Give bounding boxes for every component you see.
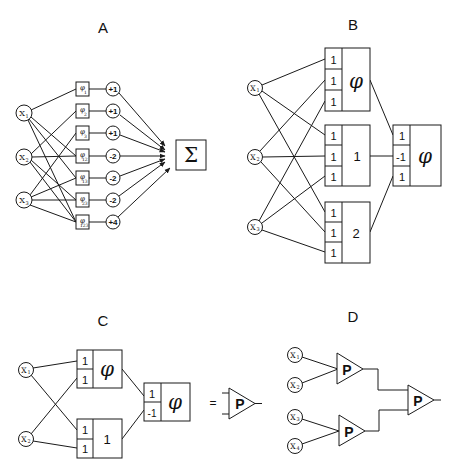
svg-text:X: X: [19, 196, 25, 205]
panel-b: B X 1 X 2: [248, 16, 442, 263]
phi-icon: φ: [349, 69, 363, 93]
panel-c-input-x1: X 1: [19, 363, 34, 378]
svg-text:3: 3: [25, 200, 28, 206]
panel-c-label: C: [98, 312, 109, 329]
panel-a-phi-units: φ 1 +1 φ 2 +1 φ 3: [76, 82, 170, 229]
svg-text:2: 2: [256, 156, 259, 162]
svg-text:1: 1: [82, 374, 88, 386]
phi-unit-123: φ 123 +4: [76, 168, 170, 229]
svg-text:1: 1: [25, 113, 28, 119]
parity-icon: P: [413, 393, 422, 409]
equals-sign: =: [209, 396, 216, 410]
svg-text:1: 1: [399, 171, 405, 183]
svg-text:2: 2: [296, 384, 299, 390]
svg-text:1: 1: [330, 54, 336, 66]
svg-text:+1: +1: [108, 107, 118, 116]
phi-icon: φ: [418, 144, 432, 168]
panel-b-hidden-unit-phi: 1 1 1 φ: [325, 48, 370, 111]
svg-text:-2: -2: [109, 152, 117, 161]
svg-text:X: X: [19, 109, 25, 118]
panel-d: D X 1 X 2 X 3 X 4: [288, 308, 442, 454]
panel-c-hidden-unit-1: 1 1 1: [77, 419, 122, 458]
svg-text:1: 1: [296, 354, 299, 360]
panel-b-input-x2: X 2: [248, 150, 263, 165]
svg-text:1: 1: [330, 151, 336, 163]
panel-b-label: B: [348, 16, 358, 33]
panel-d-parity-unit-top: P: [337, 353, 363, 384]
panel-d-input-x3: X 3: [288, 410, 303, 425]
panel-c-parity-unit: P: [222, 388, 262, 419]
panel-c-output-unit: 1 -1 φ: [144, 383, 190, 421]
svg-text:2: 2: [84, 112, 87, 117]
phi-icon: φ: [100, 357, 114, 381]
panel-c-hidden-unit-phi: 1 1 φ: [77, 350, 122, 388]
svg-text:1: 1: [82, 355, 88, 367]
panel-b-input-x3: X 3: [248, 220, 263, 235]
svg-text:4: 4: [296, 445, 299, 451]
svg-text:-2: -2: [109, 196, 117, 205]
svg-text:3: 3: [256, 226, 259, 232]
svg-text:2: 2: [25, 157, 28, 163]
phi-icon: φ: [168, 390, 182, 414]
panel-d-label: D: [348, 308, 359, 325]
panel-b-hidden-unit-2: 1 1 1 2: [325, 202, 370, 263]
parity-icon: P: [342, 362, 351, 378]
panel-a-input-edges: [28, 89, 76, 222]
svg-text:3: 3: [296, 416, 299, 422]
svg-text:1: 1: [103, 432, 110, 447]
panel-a-sum-unit: Σ: [176, 140, 206, 170]
svg-text:1: 1: [82, 424, 88, 436]
svg-text:-1: -1: [148, 408, 157, 419]
panel-d-parity-unit-output: P: [408, 385, 434, 415]
panel-d-input-x1: X 1: [288, 348, 303, 363]
phi-unit-12: φ 12 -2: [76, 149, 165, 163]
parity-network-figure: A X 1 X 2: [0, 0, 460, 474]
svg-text:-1: -1: [396, 151, 406, 163]
svg-text:1: 1: [330, 75, 336, 87]
svg-text:1: 1: [84, 90, 87, 95]
svg-text:1: 1: [149, 388, 155, 400]
panel-b-output-unit: 1 -1 1 φ: [393, 125, 441, 186]
panel-c-input-x2: X 2: [19, 432, 34, 447]
svg-text:3: 3: [84, 134, 87, 139]
svg-text:1: 1: [330, 207, 336, 219]
svg-text:X: X: [19, 153, 25, 162]
svg-text:1: 1: [82, 443, 88, 455]
svg-text:1: 1: [330, 247, 336, 259]
svg-text:1: 1: [330, 227, 336, 239]
svg-text:+4: +4: [108, 218, 118, 227]
svg-text:1: 1: [399, 130, 405, 142]
panel-a-input-x1: X 1: [16, 105, 32, 121]
svg-text:-2: -2: [109, 174, 117, 183]
svg-text:+1: +1: [108, 129, 118, 138]
svg-text:12: 12: [82, 157, 88, 162]
panel-d-parity-unit-bottom: P: [339, 415, 365, 446]
svg-text:1: 1: [256, 87, 259, 93]
svg-text:123: 123: [80, 223, 89, 228]
panel-c: C X 1 X 2 1 1 φ: [19, 312, 263, 458]
svg-text:2: 2: [27, 438, 30, 444]
panel-d-input-x2: X 2: [288, 378, 303, 393]
panel-b-input-x1: X 1: [248, 81, 263, 96]
panel-a: A X 1 X 2: [16, 19, 206, 229]
svg-text:23: 23: [82, 201, 88, 206]
parity-icon: P: [344, 424, 353, 440]
panel-a-label: A: [98, 19, 108, 36]
panel-b-hidden-unit-1: 1 1 1 1: [325, 125, 370, 186]
svg-text:1: 1: [330, 96, 336, 108]
svg-text:1: 1: [330, 171, 336, 183]
svg-text:2: 2: [352, 226, 359, 241]
svg-text:1: 1: [330, 130, 336, 142]
svg-text:13: 13: [82, 179, 88, 184]
svg-text:1: 1: [27, 369, 30, 375]
parity-icon: P: [235, 396, 244, 412]
panel-a-input-x3: X 3: [16, 192, 32, 208]
panel-a-input-x2: X 2: [16, 149, 32, 165]
svg-text:1: 1: [353, 149, 360, 164]
sigma-icon: Σ: [184, 143, 198, 167]
panel-d-input-x4: X 4: [288, 439, 303, 454]
svg-text:+1: +1: [108, 85, 118, 94]
